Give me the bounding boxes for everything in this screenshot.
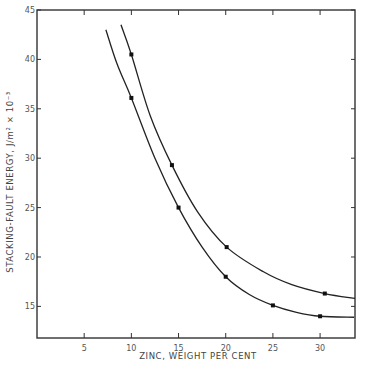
data-curves bbox=[106, 25, 355, 317]
axis-ticks: 5101520253015202530354045 bbox=[25, 6, 355, 353]
data-point bbox=[225, 245, 229, 249]
data-point bbox=[318, 314, 322, 318]
lower-curve bbox=[106, 30, 354, 317]
y-tick-label: 15 bbox=[25, 302, 35, 311]
data-point bbox=[170, 163, 174, 167]
y-axis-title: STACKING-FAULT ENERGY, J/m² × 10⁻³ bbox=[5, 91, 15, 273]
chart: 5101520253015202530354045 ZINC, WEIGHT P… bbox=[0, 0, 366, 371]
y-tick-label: 40 bbox=[25, 55, 35, 64]
data-point bbox=[323, 292, 327, 296]
data-point bbox=[129, 52, 133, 56]
data-point bbox=[129, 96, 133, 100]
y-tick-label: 35 bbox=[25, 105, 35, 114]
y-tick-label: 20 bbox=[25, 253, 35, 262]
data-point bbox=[224, 275, 228, 279]
x-tick-label: 10 bbox=[126, 344, 136, 353]
x-axis-title: ZINC, WEIGHT PER CENT bbox=[139, 351, 257, 361]
data-point bbox=[177, 206, 181, 210]
y-tick-label: 25 bbox=[25, 204, 35, 213]
x-tick-label: 5 bbox=[82, 344, 87, 353]
x-tick-label: 30 bbox=[315, 344, 325, 353]
y-tick-label: 30 bbox=[25, 154, 35, 163]
data-point bbox=[271, 303, 275, 307]
y-tick-label: 45 bbox=[25, 6, 35, 15]
x-tick-label: 25 bbox=[268, 344, 278, 353]
